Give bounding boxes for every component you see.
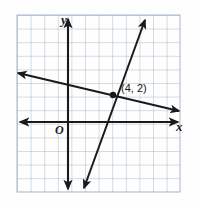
x-axis-label: x bbox=[176, 120, 183, 133]
y-axis-label: y bbox=[61, 13, 67, 26]
point-coordinate-label: (4, 2) bbox=[121, 83, 147, 94]
intersection-point bbox=[110, 92, 116, 98]
coordinate-graph-figure: y x O (4, 2) bbox=[0, 0, 197, 204]
origin-label: O bbox=[55, 124, 64, 136]
grid-lines bbox=[17, 15, 180, 192]
graph-canvas bbox=[0, 0, 197, 204]
